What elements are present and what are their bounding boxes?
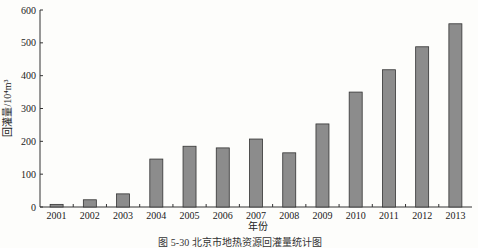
bars: [50, 24, 462, 207]
figure-caption: 图 5-30 北京市地热资源回灌量统计图: [158, 236, 321, 248]
y-tick-label: 500: [21, 37, 36, 48]
bar-2003: [117, 194, 130, 207]
x-tick-label: 2005: [180, 210, 200, 221]
x-tick-label: 2001: [47, 210, 67, 221]
x-tick-label: 2006: [213, 210, 233, 221]
x-tick-label: 2003: [113, 210, 133, 221]
bar-2002: [83, 200, 96, 207]
bar-2007: [250, 139, 263, 207]
x-tick-label: 2013: [445, 210, 465, 221]
bar-2001: [50, 204, 63, 207]
bar-2006: [216, 148, 229, 207]
x-tick-label: 2004: [146, 210, 166, 221]
bar-2010: [349, 92, 362, 207]
bar-chart: 2001200220032004200520062007200820092010…: [0, 0, 478, 248]
y-axis-label: 回灌量/10⁴m³: [2, 79, 13, 136]
x-tick-label: 2007: [246, 210, 266, 221]
x-tick-label: 2008: [279, 210, 299, 221]
bar-2004: [150, 159, 163, 207]
x-axis-label: 年份: [248, 220, 268, 232]
x-tick-label: 2011: [379, 210, 399, 221]
x-tick-label: 2009: [312, 210, 332, 221]
y-tick-label: 200: [21, 136, 36, 147]
bar-2013: [449, 24, 462, 207]
x-tick-label: 2002: [80, 210, 100, 221]
y-tick-labels: 0100200300400500600: [21, 5, 36, 213]
bar-2008: [283, 153, 296, 207]
bar-2009: [316, 124, 329, 207]
y-tick-label: 0: [31, 202, 36, 213]
y-tick-label: 600: [21, 5, 36, 16]
bar-2011: [382, 70, 395, 207]
x-tick-label: 2010: [346, 210, 366, 221]
y-tick-label: 100: [21, 169, 36, 180]
bar-2012: [416, 47, 429, 207]
x-tick-labels: 2001200220032004200520062007200820092010…: [47, 210, 466, 221]
y-tick-label: 300: [21, 103, 36, 114]
x-tick-label: 2012: [412, 210, 432, 221]
bar-2005: [183, 146, 196, 207]
y-tick-label: 400: [21, 70, 36, 81]
